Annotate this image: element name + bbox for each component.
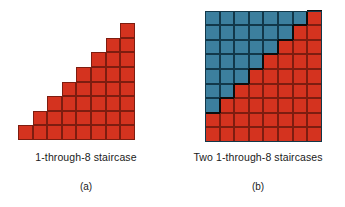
staircase-cell-red [62,111,77,126]
staircase-cell-red [33,111,48,126]
staircase-cell-red [293,54,308,69]
staircase-cell-blue [249,25,264,40]
staircase-cell-red [220,127,235,142]
staircase-divider-segment [220,97,235,99]
staircase-cell-red [120,125,135,140]
staircase-cell-red [120,67,135,82]
staircase-cell-red [47,111,62,126]
staircase-cell-blue [220,69,235,84]
staircase-cell-red [278,40,293,55]
staircase-cell-blue [205,25,220,40]
staircase-cell-blue [220,40,235,55]
staircase-cell-red [307,25,322,40]
staircase-cell-red [62,125,77,140]
staircase-cell-red [278,84,293,99]
staircase-cell-red [91,96,106,111]
staircase-cell-red [263,54,278,69]
staircase-divider-segment [277,40,279,55]
staircase-divider-segment [293,24,308,26]
staircase-cell-red [205,127,220,142]
staircase-cell-red [106,38,121,53]
staircase-cell-red [106,111,121,126]
staircase-cell-red [234,98,249,113]
staircase-cell-red [120,52,135,67]
staircase-cell-blue [234,11,249,26]
staircase-cell-blue [234,40,249,55]
staircase-cell-red [91,52,106,67]
staircase-cell-red [33,125,48,140]
staircase-cell-red [249,98,264,113]
staircase-cell-red [106,96,121,111]
staircase-cell-red [293,40,308,55]
staircase-divider-segment [262,54,264,69]
staircase-cell-blue [278,11,293,26]
staircase-cell-red [91,111,106,126]
staircase-cell-red [293,113,308,128]
staircase-divider-segment [205,112,220,114]
staircase-cell-red [205,113,220,128]
panel-a-sublabel: (a) [0,181,172,192]
staircase-cell-red [47,125,62,140]
staircase-cell-blue [220,54,235,69]
staircase-cell-red [234,113,249,128]
staircase-cell-blue [220,11,235,26]
staircase-divider-segment [263,53,278,55]
panel-a: 1-through-8 staircase (a) [0,0,172,207]
staircase-cell-blue [293,11,308,26]
staircase-cell-red [293,84,308,99]
staircase-cell-blue [220,84,235,99]
staircase-cell-red [293,25,308,40]
staircase-cell-blue [205,84,220,99]
staircase-cell-red [263,84,278,99]
staircase-cell-red [263,113,278,128]
staircase-cell-red [249,69,264,84]
staircase-divider-segment [234,83,249,85]
staircase-cell-red [307,113,322,128]
staircase-cell-red [120,96,135,111]
staircase-cell-red [120,82,135,97]
staircase-cell-blue [234,69,249,84]
staircase-cell-red [307,40,322,55]
staircase-cell-red [263,127,278,142]
staircase-divider-segment [306,11,308,26]
staircase-cell-red [91,67,106,82]
staircase-cell-red [278,54,293,69]
staircase-cell-red [293,98,308,113]
staircase-cell-red [263,98,278,113]
staircase-cell-red [293,69,308,84]
staircase-cell-blue [234,54,249,69]
staircase-cell-red [249,127,264,142]
staircase-cell-blue [278,25,293,40]
staircase-divider-segment [307,10,322,12]
staircase-cell-blue [263,25,278,40]
staircase-cell-red [249,113,264,128]
staircase-cell-blue [205,54,220,69]
staircase-cell-red [76,111,91,126]
staircase-cell-red [278,69,293,84]
staircase-cell-red [220,98,235,113]
staircase-divider-segment [233,84,235,99]
staircase-cell-red [62,82,77,97]
panel-b-sublabel: (b) [172,181,344,192]
staircase-cell-red [62,96,77,111]
staircase-divider-segment [278,39,293,41]
staircase-cell-blue [205,98,220,113]
staircase-divider-segment [292,25,294,40]
staircase-cell-red [249,84,264,99]
staircase-cell-red [278,98,293,113]
staircase-cell-red [106,82,121,97]
staircase-cell-red [220,113,235,128]
staircase-cell-red [76,67,91,82]
staircase-cell-red [307,11,322,26]
staircase-cell-red [76,96,91,111]
staircase-cell-red [278,113,293,128]
staircase-cell-red [263,69,278,84]
staircase-cell-red [106,125,121,140]
staircase-cell-red [307,54,322,69]
staircase-cell-red [307,69,322,84]
staircase-divider-segment [249,68,264,70]
staircase-cell-red [307,98,322,113]
staircase-cell-blue [263,11,278,26]
staircase-cell-red [106,67,121,82]
staircase-cell-red [91,125,106,140]
